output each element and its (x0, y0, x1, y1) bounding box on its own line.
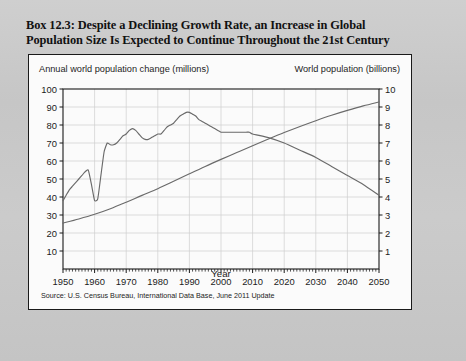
right-axis-tick-5: 5 (385, 174, 407, 185)
page-title-line-2: Population Size Is Expected to Continue … (26, 33, 444, 48)
chart-container: Annual world population change (millions… (28, 54, 412, 310)
left-axis-tick-50: 50 (31, 174, 57, 185)
left-axis-tick-100: 100 (31, 84, 57, 95)
left-axis-tick-80: 80 (31, 120, 57, 131)
right-axis-tick-1: 1 (385, 246, 407, 257)
left-axis-tick-90: 90 (31, 102, 57, 113)
left-axis-tick-40: 40 (31, 192, 57, 203)
source-note: Source: U.S. Census Bureau, Internationa… (41, 291, 275, 300)
right-axis-tick-6: 6 (385, 156, 407, 167)
page-title-line-1: Box 12.3: Despite a Declining Growth Rat… (26, 18, 444, 33)
x-axis-title: Year (29, 268, 413, 279)
gridlines (63, 89, 379, 269)
right-axis-tick-8: 8 (385, 120, 407, 131)
right-axis-tick-10: 10 (385, 84, 407, 95)
right-axis-tick-4: 4 (385, 192, 407, 203)
right-axis-tick-9: 9 (385, 102, 407, 113)
right-axis-tick-3: 3 (385, 210, 407, 221)
right-axis-tick-7: 7 (385, 138, 407, 149)
left-axis-tick-20: 20 (31, 228, 57, 239)
left-axis-tick-10: 10 (31, 246, 57, 257)
left-axis-tick-60: 60 (31, 156, 57, 167)
page-title: Box 12.3: Despite a Declining Growth Rat… (26, 18, 444, 47)
left-axis-tick-30: 30 (31, 210, 57, 221)
right-axis-tick-2: 2 (385, 228, 407, 239)
figure-page: Box 12.3: Despite a Declining Growth Rat… (0, 0, 466, 361)
left-axis-tick-70: 70 (31, 138, 57, 149)
